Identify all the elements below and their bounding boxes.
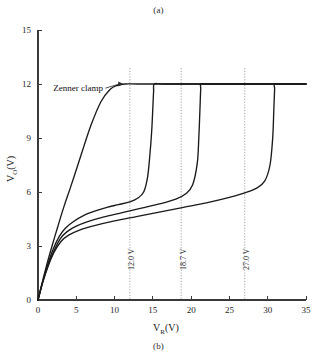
x-tick-label-0: 0 xyxy=(36,305,41,315)
annotation-label-zenner-clamp: Zenner clamp xyxy=(53,83,103,93)
panel-caption-a: (a) xyxy=(0,5,317,15)
x-axis-title-unit: (V) xyxy=(165,322,179,334)
curve-3 xyxy=(38,84,306,300)
svg-text:VO(V): VO(V) xyxy=(5,156,19,182)
x-tick-label-5: 25 xyxy=(225,305,235,315)
vline-marker-1: 18.7 V xyxy=(179,68,188,300)
x-tick-label-6: 30 xyxy=(263,305,273,315)
panel-caption-b: (b) xyxy=(0,341,317,351)
y-tick-label-2: 6 xyxy=(27,187,32,197)
y-tick-label-1: 3 xyxy=(27,241,32,251)
y-axis-title-unit: (V) xyxy=(5,156,17,170)
curve-4 xyxy=(38,84,306,300)
figure-container: (a) 12.0 V18.7 V27.0 V036912150510152025… xyxy=(0,0,317,359)
y-tick-label-5: 15 xyxy=(22,25,32,35)
vline-marker-0: 12.0 V xyxy=(127,68,136,300)
vline-label-1: 18.7 V xyxy=(179,248,188,270)
x-tick-label-3: 15 xyxy=(148,305,158,315)
x-tick-label-2: 10 xyxy=(110,305,120,315)
iv-characteristic-chart: 12.0 V18.7 V27.0 V0369121505101520253035… xyxy=(0,0,317,359)
annotation-arrowhead-zenner-clamp xyxy=(118,82,123,87)
y-tick-label-0: 0 xyxy=(27,295,32,305)
vline-marker-2: 27.0 V xyxy=(242,68,251,300)
vline-label-2: 27.0 V xyxy=(242,248,251,270)
x-tick-label-7: 35 xyxy=(302,305,312,315)
x-tick-label-4: 20 xyxy=(187,305,197,315)
x-tick-label-1: 5 xyxy=(74,305,79,315)
y-tick-label-3: 9 xyxy=(27,133,32,143)
vline-label-0: 12.0 V xyxy=(127,248,136,270)
x-axis-title: VR(V) xyxy=(153,322,179,336)
y-axis-title: VO(V) xyxy=(5,156,19,182)
curve-1 xyxy=(38,84,306,300)
y-tick-label-4: 12 xyxy=(22,79,31,89)
curve-2 xyxy=(38,83,306,300)
